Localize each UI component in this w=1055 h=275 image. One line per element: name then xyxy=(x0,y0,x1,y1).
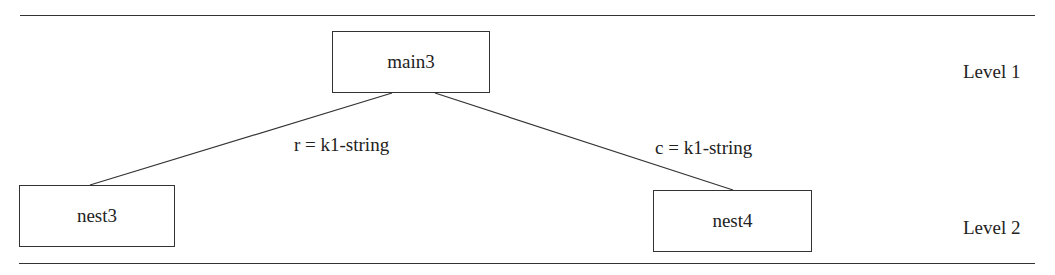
node-main3: main3 xyxy=(332,31,490,93)
node-nest3: nest3 xyxy=(19,185,175,247)
node-nest4-label: nest4 xyxy=(712,210,752,232)
level-2-label: Level 2 xyxy=(963,218,1021,237)
edge-label-c: c = k1-string xyxy=(655,138,752,157)
level-1-label: Level 1 xyxy=(963,62,1021,81)
edge-label-r: r = k1-string xyxy=(294,135,389,154)
node-main3-label: main3 xyxy=(387,51,435,73)
node-nest4: nest4 xyxy=(653,190,812,252)
node-nest3-label: nest3 xyxy=(77,205,117,227)
